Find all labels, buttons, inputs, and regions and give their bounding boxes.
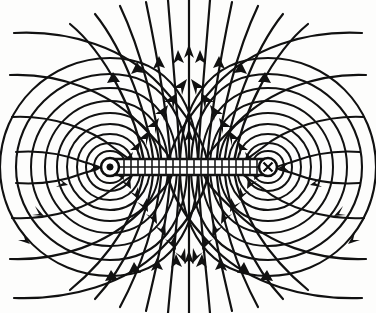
right-conductor[interactable] — [259, 158, 277, 176]
figure-canvas: Magnetic field lines of two antiparallel… — [0, 0, 376, 313]
left-conductor[interactable] — [101, 158, 119, 176]
conductor-bar — [110, 158, 268, 176]
magnetic-field-diagram — [0, 0, 376, 313]
